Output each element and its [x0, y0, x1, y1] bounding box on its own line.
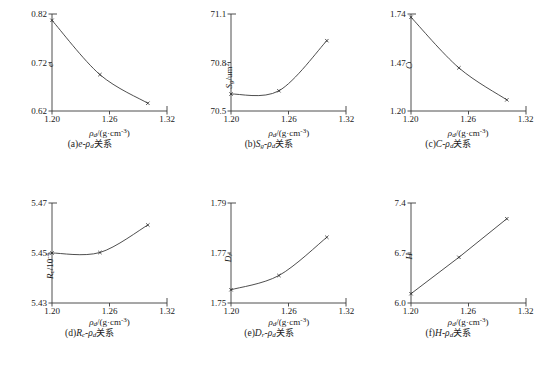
plot-area-e: 1.751.771.791.201.261.32Dr [231, 203, 346, 303]
y-axis-label-b: Sg/um2 [222, 63, 236, 89]
y-axis-label-f: H [404, 253, 414, 260]
chart-panel-c: 1.201.471.741.201.261.32Cρd/(g·cm-3)(c)C… [359, 0, 538, 185]
y-tick-label: 7.4 [394, 199, 405, 208]
figure-six-panel-chart: 0.620.720.821.201.261.32eρd/(g·cm-3)(a)e… [0, 0, 538, 370]
panel-caption-f: (f)H-ρd关系 [359, 327, 538, 341]
plot-area-f: 6.06.77.41.201.261.32H [411, 203, 526, 303]
x-tick-label: 1.26 [460, 115, 476, 124]
x-tick-label: 1.20 [44, 115, 60, 124]
chart-panel-b: 70.570.871.11.201.261.32Sg/um2ρd/(g·cm-3… [179, 0, 358, 185]
x-tick-label: 1.32 [518, 115, 534, 124]
axes-c [411, 14, 526, 111]
axes-f [411, 203, 526, 303]
plot-area-a: 0.620.720.821.201.261.32e [52, 14, 167, 111]
axes-e [231, 203, 346, 303]
panel-caption-b: (b)Sg-ρd关系 [179, 138, 358, 152]
axes-a [52, 14, 167, 111]
y-tick-label: 0.82 [31, 10, 47, 19]
x-tick-label: 1.32 [159, 115, 175, 124]
plot-area-c: 1.201.471.741.201.261.32C [411, 14, 526, 111]
y-axis-label-a: e [45, 63, 55, 67]
x-tick-label: 1.32 [338, 115, 354, 124]
x-tick-label: 1.20 [403, 115, 419, 124]
axes-d [52, 203, 167, 303]
x-tick-label: 1.26 [281, 115, 297, 124]
y-axis-label-e: Dr [223, 253, 235, 262]
x-tick-label: 1.26 [102, 115, 118, 124]
axes-b [231, 14, 346, 111]
chart-panel-a: 0.620.720.821.201.261.32eρd/(g·cm-3)(a)e… [0, 0, 179, 185]
chart-panel-d: 5.435.455.471.201.261.32Rc/10-4ρd/(g·cm-… [0, 185, 179, 370]
plot-area-d: 5.435.455.471.201.261.32Rc/10-4 [52, 203, 167, 303]
y-tick-label: 1.74 [390, 10, 406, 19]
y-tick-label: 5.47 [31, 199, 47, 208]
panel-caption-e: (e)Dr-ρd关系 [179, 327, 358, 341]
panel-caption-d: (d)Rc-ρd关系 [0, 327, 179, 341]
y-axis-label-d: Rc/10-4 [43, 253, 57, 279]
y-tick-label: 1.79 [211, 199, 227, 208]
chart-panel-f: 6.06.77.41.201.261.32Hρd/(g·cm-3)(f)H-ρd… [359, 185, 538, 370]
y-tick-label: 71.1 [211, 10, 227, 19]
plot-area-b: 70.570.871.11.201.261.32Sg/um2 [231, 14, 346, 111]
x-tick-label: 1.20 [223, 115, 239, 124]
y-axis-label-c: C [404, 63, 414, 69]
panel-caption-a: (a)e-ρd关系 [0, 138, 179, 152]
panel-caption-c: (c)C-ρd关系 [359, 138, 538, 152]
chart-panel-e: 1.751.771.791.201.261.32Drρd/(g·cm-3)(e)… [179, 185, 358, 370]
